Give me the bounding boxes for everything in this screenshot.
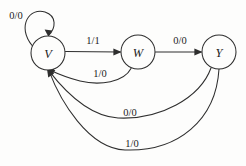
transition-v-to-w (66, 48, 122, 55)
state-node-y[interactable]: Y (202, 35, 236, 69)
edge-path-v-to-w (66, 52, 121, 53)
transition-w-to-v (47, 65, 131, 83)
transition-label-y-to-v-zero: 0/0 (123, 107, 136, 118)
state-node-v[interactable]: V (31, 36, 65, 70)
edge-path-w-to-v (49, 69, 132, 84)
state-diagram-canvas: V W Y 0/0 1/1 0/0 1/0 0/0 1/0 (0, 0, 246, 166)
transition-label-w-to-y: 0/0 (173, 35, 186, 46)
arrow-head-w-to-y (194, 48, 202, 55)
transition-label-v-to-v: 0/0 (9, 10, 22, 21)
state-node-w[interactable]: W (121, 35, 155, 69)
state-label-w: W (133, 46, 145, 60)
transition-w-to-y (156, 48, 203, 55)
state-diagram: V W Y 0/0 1/1 0/0 1/0 0/0 1/0 (0, 0, 246, 166)
arrow-head-v-to-w (113, 48, 121, 55)
transition-label-w-to-v: 1/0 (93, 68, 106, 79)
transition-label-v-to-w: 1/1 (86, 35, 99, 46)
transition-label-y-to-v-one: 1/0 (125, 138, 138, 149)
